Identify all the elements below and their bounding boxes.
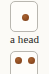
- die-pip-top-left: [15, 57, 22, 64]
- die-pip-top-right: [28, 57, 35, 64]
- figure-caption: a head: [0, 33, 49, 46]
- die-bottom: [10, 51, 38, 74]
- dice-figure: a head: [0, 0, 49, 74]
- die-pip-center: [22, 14, 29, 21]
- die-top: [10, 1, 38, 32]
